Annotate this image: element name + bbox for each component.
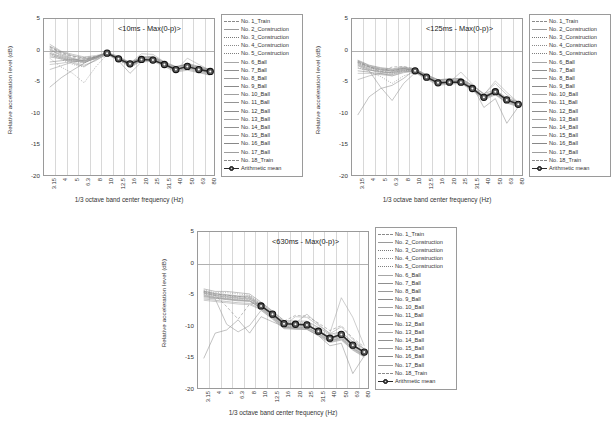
legend-swatch [224, 67, 239, 74]
x-axis-tick-label: 31.5 [474, 178, 480, 189]
legend-item[interactable]: No. 10_Ball [224, 91, 301, 99]
legend-item[interactable]: No. 15_Ball [224, 132, 301, 140]
legend-item[interactable]: No. 1_Train [532, 17, 609, 25]
legend-item[interactable]: No. 7_Ball [224, 66, 301, 74]
y-axis-tick-label: -20 [12, 173, 40, 179]
chart-panel-630ms: Relative acceleration level (dB)50-5-10-… [154, 213, 462, 425]
legend-item[interactable]: No. 8_Ball [224, 74, 301, 82]
legend-item[interactable]: No. 6_Ball [378, 271, 455, 279]
legend-item[interactable]: Arithmetic mean [224, 164, 301, 172]
legend-item[interactable]: No. 11_Ball [224, 99, 301, 107]
legend-label: No. 18_Train [395, 370, 427, 377]
legend-label: No. 18_Train [241, 157, 273, 164]
data-point-marker-center [437, 82, 439, 84]
legend-item[interactable]: No. 16_Ball [224, 140, 301, 148]
chart-legend: No. 1_TrainNo. 2_ConstructionNo. 3_Const… [221, 14, 303, 177]
legend-item[interactable]: No. 5_Construction [378, 263, 455, 271]
x-axis-tick-label: 12.5 [120, 178, 126, 189]
legend-swatch [378, 345, 393, 352]
legend-item[interactable]: No. 9_Ball [224, 83, 301, 91]
legend-item[interactable]: No. 2_Construction [224, 25, 301, 33]
legend-item[interactable]: No. 18_Train [224, 156, 301, 164]
legend-swatch [378, 353, 393, 360]
legend-item[interactable]: No. 6_Ball [224, 58, 301, 66]
legend-item[interactable]: No. 5_Construction [532, 50, 609, 58]
x-axis-tick-label: 4 [216, 391, 222, 394]
legend-item[interactable]: No. 18_Train [532, 156, 609, 164]
legend-swatch [224, 132, 239, 139]
legend-item[interactable]: No. 7_Ball [378, 279, 455, 287]
legend-item[interactable]: No. 10_Ball [378, 304, 455, 312]
legend-item[interactable]: No. 17_Ball [532, 148, 609, 156]
legend-item[interactable]: No. 5_Construction [224, 50, 301, 58]
legend-item[interactable]: No. 16_Ball [532, 140, 609, 148]
legend-label: No. 16_Ball [241, 140, 270, 147]
legend-label: No. 1_Train [395, 231, 424, 238]
legend-item[interactable]: No. 1_Train [378, 230, 455, 238]
data-point-marker-center [152, 59, 154, 61]
x-axis-tick-label: 12.5 [428, 178, 434, 189]
legend-item[interactable]: No. 10_Ball [532, 91, 609, 99]
y-axis-tick-label: -20 [320, 173, 348, 179]
legend-marker-icon [537, 166, 542, 171]
legend-swatch [532, 75, 547, 82]
y-axis-tick-label: 5 [166, 228, 194, 234]
legend-item[interactable]: No. 17_Ball [378, 361, 455, 369]
legend-item[interactable]: No. 13_Ball [378, 328, 455, 336]
legend-item[interactable]: No. 14_Ball [378, 336, 455, 344]
legend-item[interactable]: No. 4_Construction [532, 42, 609, 50]
x-axis-tick-label: 50 [343, 391, 349, 397]
x-axis-tick-label: 50 [497, 178, 503, 184]
legend-label: No. 1_Train [241, 18, 270, 25]
legend-item[interactable]: No. 7_Ball [532, 66, 609, 74]
legend-item[interactable]: No. 17_Ball [224, 148, 301, 156]
legend-item[interactable]: No. 11_Ball [378, 312, 455, 320]
legend-label: No. 3_Construction [395, 247, 443, 254]
legend-item[interactable]: No. 4_Construction [224, 42, 301, 50]
legend-item[interactable]: No. 18_Train [378, 369, 455, 377]
legend-item[interactable]: No. 9_Ball [378, 296, 455, 304]
legend-item[interactable]: No. 14_Ball [224, 123, 301, 131]
legend-item[interactable]: No. 3_Construction [378, 246, 455, 254]
legend-item[interactable]: No. 4_Construction [378, 255, 455, 263]
legend-item[interactable]: No. 3_Construction [224, 33, 301, 41]
legend-swatch [532, 50, 547, 57]
legend-item[interactable]: No. 3_Construction [532, 33, 609, 41]
legend-item[interactable]: No. 12_Ball [224, 107, 301, 115]
legend-swatch [224, 157, 239, 164]
legend-item[interactable]: Arithmetic mean [378, 377, 455, 385]
legend-item[interactable]: No. 8_Ball [378, 287, 455, 295]
legend-label: No. 3_Construction [549, 34, 597, 41]
legend-item[interactable]: Arithmetic mean [532, 164, 609, 172]
legend-swatch [224, 108, 239, 115]
legend-item[interactable]: No. 9_Ball [532, 83, 609, 91]
x-axis-tick-label: 50 [189, 178, 195, 184]
legend-item[interactable]: No. 6_Ball [532, 58, 609, 66]
legend-item[interactable]: No. 2_Construction [532, 25, 609, 33]
x-axis-label: 1/3 octave band center frequency (Hz) [43, 196, 215, 203]
legend-label: No. 12_Ball [395, 321, 424, 328]
data-point-marker-center [494, 91, 496, 93]
legend-item[interactable]: No. 15_Ball [378, 345, 455, 353]
legend-item[interactable]: No. 13_Ball [532, 115, 609, 123]
legend-label: No. 9_Ball [549, 83, 575, 90]
data-point-marker-center [517, 103, 519, 105]
legend-item[interactable]: No. 8_Ball [532, 74, 609, 82]
legend-label: No. 15_Ball [395, 345, 424, 352]
legend-item[interactable]: No. 15_Ball [532, 132, 609, 140]
legend-item[interactable]: No. 1_Train [224, 17, 301, 25]
legend-item[interactable]: No. 14_Ball [532, 123, 609, 131]
legend-label: No. 2_Construction [549, 26, 597, 33]
data-point-marker-center [352, 344, 354, 346]
legend-item[interactable]: No. 13_Ball [224, 115, 301, 123]
legend-item[interactable]: No. 12_Ball [378, 320, 455, 328]
legend-label: No. 4_Construction [241, 42, 289, 49]
legend-label: No. 6_Ball [549, 59, 575, 66]
legend-item[interactable]: No. 2_Construction [378, 238, 455, 246]
legend-swatch [532, 140, 547, 147]
legend-item[interactable]: No. 11_Ball [532, 99, 609, 107]
y-axis-tick-label: -20 [166, 386, 194, 392]
legend-item[interactable]: No. 12_Ball [532, 107, 609, 115]
legend-swatch [532, 67, 547, 74]
legend-item[interactable]: No. 16_Ball [378, 353, 455, 361]
